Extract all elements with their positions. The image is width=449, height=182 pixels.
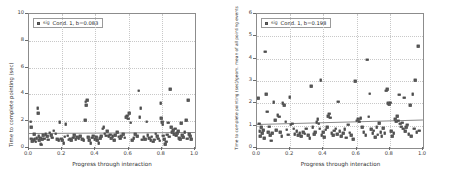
data-point [345, 136, 348, 139]
y-tick-mark [25, 67, 28, 68]
data-point [113, 139, 116, 142]
data-point [373, 129, 376, 132]
data-point [122, 133, 125, 136]
data-point [369, 92, 372, 95]
data-point [403, 96, 406, 99]
data-point [396, 115, 399, 118]
data-point [65, 123, 68, 126]
data-point [129, 121, 132, 124]
data-point [354, 80, 357, 83]
y-tick-mark [253, 13, 256, 14]
data-point [324, 128, 327, 131]
x-tick-label: 0.4 [90, 151, 98, 156]
data-point [262, 129, 265, 132]
data-point [305, 127, 308, 130]
data-point [89, 142, 92, 145]
x-tick-label: 0.0 [24, 151, 32, 156]
data-point [274, 119, 277, 122]
data-point [97, 142, 100, 145]
data-point [347, 123, 350, 126]
data-point [177, 130, 180, 133]
x-tick-label: 0.8 [385, 151, 393, 156]
data-point [146, 120, 149, 123]
data-point [384, 132, 387, 135]
gridline-horizontal [29, 94, 195, 95]
data-point [116, 131, 119, 134]
data-point [300, 135, 303, 138]
data-point [136, 135, 139, 138]
data-point [391, 135, 394, 138]
data-point [162, 134, 165, 137]
data-point [265, 93, 268, 96]
y-tick-mark [253, 80, 256, 81]
data-point [367, 115, 370, 118]
data-point [377, 133, 380, 136]
gridline-vertical [62, 14, 63, 148]
data-point [271, 132, 274, 135]
data-point [310, 85, 313, 88]
legend-marker-icon [37, 22, 40, 25]
legend-marker-icon [265, 22, 268, 25]
data-point [389, 102, 392, 105]
data-point [132, 137, 135, 140]
data-point [62, 142, 65, 145]
data-point [316, 118, 319, 121]
y-tick-label: 8 [10, 37, 24, 42]
data-point [272, 101, 275, 104]
data-point [183, 131, 186, 134]
gridline-horizontal [29, 121, 195, 122]
data-point [270, 140, 273, 143]
data-point [288, 96, 291, 99]
data-point [268, 125, 271, 128]
data-point [343, 128, 346, 131]
data-point [114, 134, 117, 137]
x-tick-label: 0.6 [123, 151, 131, 156]
gridline-horizontal [257, 36, 423, 37]
y-tick-mark [25, 13, 28, 14]
legend-left: sig Cond. 1, b=0.083 [33, 18, 103, 28]
data-point [127, 117, 130, 120]
data-point [84, 119, 87, 122]
data-point [313, 133, 316, 136]
y-tick-label: 1 [238, 122, 252, 127]
data-point [33, 133, 36, 136]
gridline-horizontal [257, 81, 423, 82]
y-tick-mark [25, 147, 28, 148]
data-point [36, 107, 39, 110]
data-point [280, 135, 283, 138]
data-point [336, 133, 339, 136]
y-tick-mark [253, 102, 256, 103]
data-point [286, 128, 289, 131]
data-point [308, 137, 311, 140]
data-point [30, 126, 33, 129]
x-tick-label: 0.0 [252, 151, 260, 156]
data-point [29, 121, 32, 124]
data-point [185, 119, 188, 122]
data-point [279, 131, 282, 134]
data-point [70, 139, 73, 142]
data-point [411, 93, 414, 96]
data-point [165, 140, 168, 143]
data-point [164, 143, 167, 146]
x-tick-label: 0.2 [57, 151, 65, 156]
data-point [169, 88, 172, 91]
data-point [283, 104, 286, 107]
data-point [106, 130, 109, 133]
y-axis-label-left: Time to complete pointing (sec) [9, 62, 14, 147]
data-point [409, 104, 412, 107]
y-tick-label: 10 [10, 10, 24, 15]
data-point [392, 132, 395, 135]
data-point [371, 132, 374, 135]
data-point [358, 120, 361, 123]
data-point [311, 126, 314, 129]
data-point [102, 126, 105, 129]
data-point [82, 139, 85, 142]
plot-area-right: sig Cond. 1, b=0.198 [256, 13, 424, 149]
x-axis-label-right: Progress through interaction [228, 162, 449, 168]
data-point [332, 134, 335, 137]
data-point [319, 79, 322, 82]
data-point [167, 122, 170, 125]
y-tick-mark [253, 125, 256, 126]
y-tick-mark [253, 147, 256, 148]
data-point [170, 126, 173, 129]
